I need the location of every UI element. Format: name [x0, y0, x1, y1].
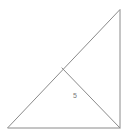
geometry-figure-canvas: 5: [0, 0, 128, 136]
geometry-figure-svg: 5: [0, 0, 128, 136]
cevian-length-label: 5: [73, 92, 77, 99]
cevian-segment: [62, 68, 120, 128]
